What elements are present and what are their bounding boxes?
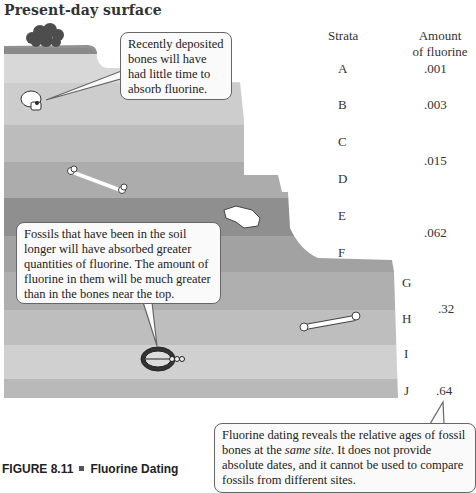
dating-callout-pointer [430, 402, 444, 424]
older-fossils-callout: Fossils that have been in the soil longe… [16, 222, 221, 304]
recent-bones-text: Recently deposited bones will have had l… [128, 37, 223, 96]
stratum-C [0, 125, 476, 162]
amount-column-header: Amount of fluorine [405, 28, 475, 60]
bush-icon [26, 23, 64, 47]
stratum-label-g: G [402, 275, 411, 291]
stratum-label-j: J [404, 383, 409, 399]
stratum-label-d: D [338, 171, 347, 187]
fluorine-amount-0: .001 [424, 61, 447, 77]
bullet-square-icon [79, 466, 84, 471]
fluorine-amount-3: .062 [424, 225, 447, 241]
stratum-label-c: C [338, 134, 347, 150]
fluorine-amount-1: .003 [424, 97, 447, 113]
grass-surface [4, 45, 97, 54]
figure-caption: FIGURE 8.11Fluorine Dating [2, 462, 178, 476]
stratum-label-h: H [402, 311, 411, 327]
stratum-label-i: I [404, 346, 408, 362]
stratum-label-e: E [338, 208, 346, 224]
fluorine-amount-2: .015 [424, 153, 447, 169]
older-fossils-text: Fossils that have been in the soil longe… [24, 227, 211, 301]
stratum-label-f: F [338, 245, 345, 261]
recent-bones-callout: Recently deposited bones will have had l… [120, 32, 232, 100]
fluorine-amount-4: .32 [438, 301, 454, 317]
fluorine-amount-5: .64 [436, 383, 452, 399]
stratum-B [0, 83, 476, 125]
strata-column-header: Strata [328, 28, 358, 44]
stratum-label-a: A [338, 61, 347, 77]
stratum-label-b: B [338, 97, 347, 113]
fluorine-dating-callout: Fluorine dating reveals the relative age… [214, 423, 476, 493]
